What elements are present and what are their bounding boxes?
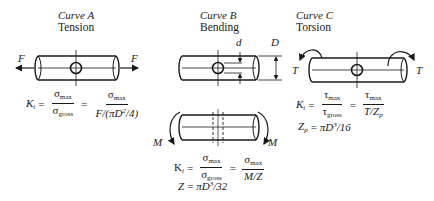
panel-c-subtitle: Torsion (296, 21, 331, 33)
panel-a-subtitle: Tension (58, 21, 94, 33)
polar-modulus-equation: Zp = πD3/16 (298, 120, 351, 134)
bending-bar-hole (179, 50, 282, 86)
torsion-bar (309, 52, 407, 88)
panel-b-title: Curve B (200, 9, 236, 21)
panel-a-title: Curve A (58, 9, 94, 21)
hole-diameter-label: d (236, 36, 242, 48)
tension-stress-equation: Kt = σmax σgross = σmax F/(πD2/4) (26, 87, 143, 120)
moment-label-right: M (268, 136, 277, 148)
torque-label-left: T (292, 64, 298, 76)
section-modulus-equation: Z = πD3/32 (178, 180, 227, 192)
bending-bar-side (179, 109, 259, 146)
bar-diameter-label: D (271, 36, 279, 48)
moment-label-left: M (153, 136, 162, 148)
force-label-right: F (131, 52, 138, 64)
torque-label-right: T (416, 64, 422, 76)
tension-bar (35, 50, 119, 86)
panel-b-subtitle: Bending (200, 21, 239, 33)
panel-c-title: Curve C (296, 9, 333, 21)
force-label-left: F (18, 52, 25, 64)
torsion-stress-equation: Kt = τmax τgross = τmax T/Zp (296, 88, 388, 121)
